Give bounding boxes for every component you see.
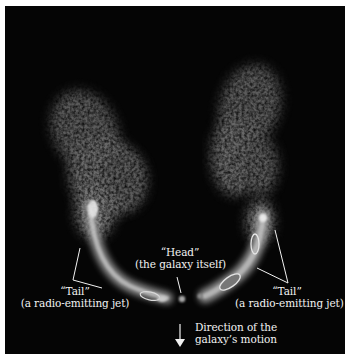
tail-right-title: “Tail” (235, 285, 339, 297)
tail-left-title: “Tail” (20, 285, 130, 297)
head-title: “Head” (135, 246, 225, 258)
tail-right-subtitle: (a radio-emitting jet) (235, 297, 339, 309)
right-lobe (210, 58, 290, 243)
galaxy-head (179, 293, 203, 302)
arrow-down-icon (175, 324, 185, 347)
radio-image-frame: “Tail” (a radio-emitting jet) “Head” (th… (5, 6, 345, 354)
direction-line1: Direction of the (195, 321, 277, 333)
direction-line2: galaxy’s motion (195, 333, 277, 345)
tail-left-subtitle: (a radio-emitting jet) (20, 297, 130, 309)
direction-label: Direction of the galaxy’s motion (195, 321, 277, 345)
tail-right-label: “Tail” (a radio-emitting jet) (235, 285, 339, 309)
head-label: “Head” (the galaxy itself) (135, 246, 225, 270)
head-subtitle: (the galaxy itself) (135, 258, 225, 270)
tail-left-label: “Tail” (a radio-emitting jet) (20, 285, 130, 309)
head-pointer (177, 277, 181, 293)
